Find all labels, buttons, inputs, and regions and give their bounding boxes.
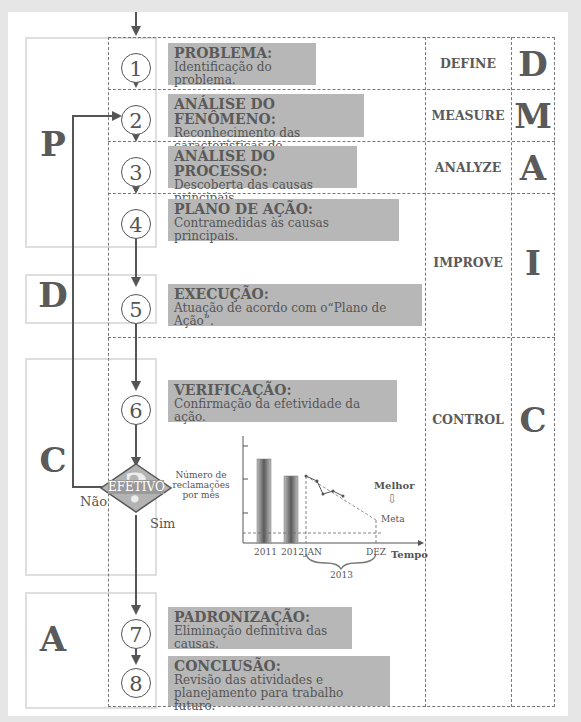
dmaic-define-letter: D bbox=[510, 44, 556, 84]
step-8-desc: Revisão das atividades e planejamento pa… bbox=[174, 674, 384, 713]
step-8-box: CONCLUSÃO: Revisão das atividades e plan… bbox=[168, 656, 390, 706]
chart-x-label-2012: 2012 bbox=[281, 547, 304, 557]
pdca-letter-plan: P bbox=[28, 124, 78, 164]
chart-x-label-dez: DEZ bbox=[366, 547, 386, 557]
step-6-desc: Confirmação da efetividade da ação. bbox=[174, 398, 391, 424]
step-1-number: 1 bbox=[121, 53, 151, 83]
step-4-number: 4 bbox=[121, 209, 151, 239]
step-1-title: PROBLEMA: bbox=[174, 46, 310, 61]
dmaic-control-letter: C bbox=[510, 400, 556, 440]
chart-better-label: Melhor bbox=[374, 480, 414, 491]
step-3-number: 3 bbox=[121, 157, 151, 187]
chart-target-label: Meta bbox=[381, 514, 405, 524]
dmaic-analyze-label: ANALYZE bbox=[418, 160, 518, 175]
dmaic-measure-letter: M bbox=[510, 96, 556, 136]
step-7-desc: Eliminação definitiva das causas. bbox=[174, 625, 346, 651]
page: P D C A 1 2 3 4 5 6 7 8 PROBLEMA: bbox=[8, 12, 568, 716]
loop-line-top bbox=[72, 115, 113, 117]
grid-row-divider-4 bbox=[108, 337, 555, 338]
step-5-box: EXECUÇÃO: Atuação de acordo com o“Plano … bbox=[168, 284, 422, 326]
chart-x-label-jan: JAN bbox=[304, 547, 322, 557]
step-2-box: ANÁLISE DO FENÔMENO: Reconhecimento das … bbox=[168, 94, 364, 137]
grid-dmaic-divider bbox=[425, 37, 426, 707]
dmaic-control-label: CONTROL bbox=[418, 412, 518, 427]
step-8-number: 8 bbox=[121, 668, 151, 698]
arrow-down-icon bbox=[131, 381, 141, 391]
arrow-down-icon bbox=[131, 605, 141, 615]
grid-top-border bbox=[108, 37, 555, 38]
chart-year-label: 2013 bbox=[330, 570, 353, 580]
dmaic-measure-label: MEASURE bbox=[418, 108, 518, 123]
grid-row-divider-1 bbox=[108, 89, 555, 90]
arrow-down-better-icon: ⇩ bbox=[387, 492, 397, 506]
decision-label: EFETIVO bbox=[108, 480, 164, 494]
step-7-box: PADRONIZAÇÃO: Eliminação definitiva das … bbox=[168, 607, 352, 649]
grid-letter-divider bbox=[511, 37, 512, 707]
pdca-letter-act: A bbox=[28, 619, 78, 659]
step-5-desc: Atuação de acordo com o“Plano de Ação”. bbox=[174, 302, 416, 328]
step-6-title: VERIFICAÇÃO: bbox=[174, 383, 391, 398]
chart-x-axis-label: Tempo bbox=[391, 549, 428, 560]
step-6-box: VERIFICAÇÃO: Confirmação da efetividade … bbox=[168, 380, 397, 422]
dmaic-improve-label: IMPROVE bbox=[418, 255, 518, 270]
step-3-title: ANÁLISE DO PROCESSO: bbox=[174, 149, 351, 179]
flow-line-decision-7 bbox=[135, 515, 137, 607]
arrow-down-icon bbox=[131, 655, 141, 665]
step-8-title: CONCLUSÃO: bbox=[174, 659, 384, 674]
chart-x-label-2011: 2011 bbox=[254, 547, 277, 557]
flow-line-5-6 bbox=[135, 324, 137, 384]
decision-no-label: Não bbox=[80, 494, 107, 509]
step-1-box: PROBLEMA: Identificação do problema. bbox=[168, 43, 316, 85]
chart: Número de reclamações por mês bbox=[168, 422, 428, 592]
step-7-title: PADRONIZAÇÃO: bbox=[174, 610, 346, 625]
grid-right-border bbox=[554, 37, 555, 707]
arrow-down-icon bbox=[131, 277, 141, 287]
grid-left-border bbox=[108, 37, 109, 707]
pdca-letter-do: D bbox=[28, 275, 78, 315]
step-6-number: 6 bbox=[121, 395, 151, 425]
step-2-number: 2 bbox=[121, 105, 151, 135]
step-2-title: ANÁLISE DO FENÔMENO: bbox=[174, 97, 358, 127]
step-1-desc: Identificação do problema. bbox=[174, 61, 310, 87]
step-4-box: PLANO DE AÇÃO: Contramedidas às causas p… bbox=[168, 199, 399, 241]
step-5-title: EXECUÇÃO: bbox=[174, 287, 416, 302]
step-5-number: 5 bbox=[121, 294, 151, 324]
dmaic-improve-letter: I bbox=[510, 243, 556, 283]
step-4-title: PLANO DE AÇÃO: bbox=[174, 202, 393, 217]
step-7-number: 7 bbox=[121, 619, 151, 649]
step-3-box: ANÁLISE DO PROCESSO: Descoberta das caus… bbox=[168, 146, 357, 188]
decision-diamond: ? EFETIVO bbox=[100, 463, 172, 513]
loop-line-vertical bbox=[72, 115, 74, 488]
flow-line-6-decision bbox=[135, 424, 137, 460]
step-4-desc: Contramedidas às causas principais. bbox=[174, 217, 393, 243]
chart-plot bbox=[168, 422, 428, 592]
entry-arrow-icon bbox=[131, 26, 141, 36]
pdca-letter-check: C bbox=[28, 440, 78, 480]
dmaic-define-label: DEFINE bbox=[418, 56, 518, 71]
dmaic-analyze-letter: A bbox=[510, 148, 556, 188]
